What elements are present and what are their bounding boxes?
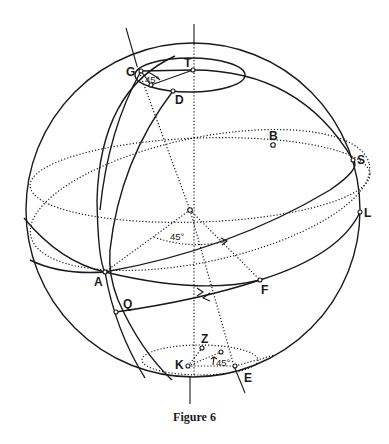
label-l: L: [364, 206, 371, 220]
point-q: [114, 310, 118, 314]
point-p: [219, 350, 223, 354]
great-circle-a-f-l: [30, 212, 360, 286]
label-e: E: [244, 371, 252, 385]
point-z: [200, 346, 204, 350]
angle-label-top: 45°: [145, 74, 160, 85]
label-t: T: [184, 56, 192, 70]
point-g: [139, 69, 143, 73]
tilted-axis-top: [126, 28, 137, 66]
point-l: [358, 210, 362, 214]
point-a: [103, 270, 107, 274]
angle-label-bottom: 45°: [216, 357, 231, 368]
point-k: [186, 364, 190, 368]
point-f: [258, 278, 262, 282]
great-circle-a-s: [24, 160, 355, 272]
label-z: Z: [201, 332, 208, 346]
point-s: [351, 158, 355, 162]
celestial-sphere-diagram: T G D B S L A F Q Z K E 45° 45° 45°: [0, 0, 389, 444]
tilted-axis-lower: [190, 210, 234, 366]
meridian-d: [110, 91, 173, 380]
label-d: D: [175, 93, 184, 107]
label-a: A: [94, 275, 103, 289]
meridian-g-upper: [100, 71, 141, 210]
tilted-axis: [137, 66, 190, 210]
point-e: [233, 364, 237, 368]
point-t: [191, 68, 195, 72]
label-g: G: [126, 65, 135, 79]
label-f: F: [261, 283, 268, 297]
label-b: B: [269, 129, 278, 143]
angle-label-center: 45°: [170, 231, 185, 242]
label-s: S: [357, 153, 365, 167]
label-k: K: [175, 358, 184, 372]
figure-caption: Figure 6: [0, 410, 389, 425]
sphere-outline: [26, 43, 360, 377]
arrow-fq: [203, 293, 210, 301]
point-center: [188, 208, 193, 213]
point-b: [271, 143, 276, 148]
dotted-great-circle-2: [29, 132, 372, 228]
dotted-great-circle-1: [18, 103, 382, 296]
center-to-f: [190, 210, 260, 280]
arrow-af: [197, 288, 203, 296]
label-q: Q: [123, 297, 132, 311]
